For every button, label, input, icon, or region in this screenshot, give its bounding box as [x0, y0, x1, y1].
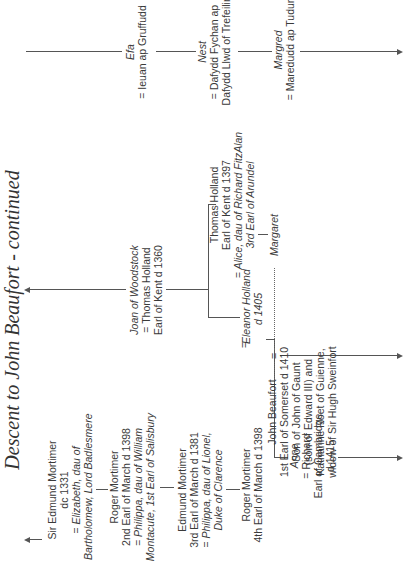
person-name: Nest — [196, 0, 208, 112]
person-joan-of-woodstock: Joan of Woodstock = Thomas Holland Earl … — [128, 240, 164, 340]
spouse-text: = Philippa, dau of William — [132, 412, 144, 562]
person-name: Joan of Woodstock — [128, 240, 140, 340]
person-margaret: Margaret — [268, 200, 280, 270]
spouse-text: Bartholomew, Lord Badlesmere — [82, 420, 94, 560]
arrow-icon — [24, 537, 30, 543]
person-name: Roger Mortimer — [108, 412, 120, 562]
arrow-icon — [397, 455, 403, 461]
person-nest: Nest = Dafydd Fychan ap Dafydd Llwd of T… — [196, 0, 232, 112]
person-sir-edmund-mortimer: Sir Edmund Mortimer dc 1331 = Elizabeth,… — [46, 420, 94, 560]
connector-line — [238, 51, 272, 52]
connector-line — [208, 317, 240, 318]
connector-line — [26, 51, 122, 52]
spouse-text: Montacute, 1st Earl of Salisbury — [144, 412, 156, 562]
connector-line — [160, 487, 174, 488]
person-detail: 2nd Earl of March d 1398 — [120, 412, 132, 562]
person-detail: Earl of Kent d 1397 — [220, 125, 232, 285]
spouse-text: Earl of Kent d 1360 — [152, 240, 164, 340]
connector-line — [28, 289, 126, 290]
spouse-text: = Philippa, dau of Lionel, — [200, 420, 212, 560]
person-name: Roger Mortimer — [240, 420, 252, 550]
person-name: Edmund Mortimer — [176, 420, 188, 560]
person-detail: Katharine Roet of Guienne, — [314, 342, 326, 482]
connector-line — [226, 489, 240, 490]
person-detail: 3rd Earl of March d 1381 — [188, 420, 200, 560]
person-detail: 1st Earl of Somerset d 1410 — [278, 342, 290, 482]
person-roger-mortimer-4th: Roger Mortimer 4th Earl of March d 1398 — [240, 420, 264, 550]
arrow-icon — [24, 287, 30, 293]
person-roger-mortimer-2nd: Roger Mortimer 2nd Earl of March d 1398 … — [108, 412, 156, 562]
connector-line — [96, 489, 108, 490]
arrow-icon — [397, 49, 403, 55]
spouse-text: Dafydd Llwd of Trefeilir — [220, 0, 232, 112]
connector-line — [28, 539, 42, 540]
person-name: John Beaufort — [266, 342, 278, 482]
person-detail: dc 1331 — [58, 420, 70, 560]
spouse-text: = Elizabeth, dau of — [70, 420, 82, 560]
person-efa: Efa = Ieuan ap Gruffudd — [124, 2, 148, 102]
spouse-text: = Dafydd Fychan ap — [208, 0, 220, 112]
connector-line — [338, 457, 398, 458]
spouse-text: 3rd Earl of Arundel — [244, 125, 256, 285]
page-title: Descent to John Beaufort - continued — [0, 100, 24, 540]
person-name: Efa — [124, 2, 136, 102]
spouse-text: = Alice, dau of Richard FitzAlan — [232, 125, 244, 285]
person-name: Margaret — [268, 200, 280, 270]
connector-line — [258, 234, 268, 235]
spouse-text: = Maredudd ap Tudur — [284, 0, 296, 110]
person-name: Margred — [272, 0, 284, 110]
person-detail: 4th Earl of March d 1398 — [252, 420, 264, 550]
connector-line — [166, 289, 208, 290]
person-name: Thomas Holland — [208, 125, 220, 285]
person-detail: widow of Sir Hugh Sweinfort — [326, 342, 338, 482]
person-name: Sir Edmund Mortimer — [46, 420, 58, 560]
person-thomas-holland: Thomas Holland Earl of Kent d 1397 = Ali… — [208, 125, 256, 285]
person-margred: Margred = Maredudd ap Tudur — [272, 0, 296, 110]
connector-line — [156, 51, 196, 52]
person-edmund-mortimer-3rd: Edmund Mortimer 3rd Earl of March d 1381… — [176, 420, 224, 560]
spouse-text: = Ieuan ap Gruffudd — [136, 2, 148, 102]
arrow-icon — [397, 353, 403, 359]
person-detail: (son of Edward III) and — [302, 342, 314, 482]
person-john-beaufort-block: John Beaufort 1st Earl of Somerset d 141… — [266, 342, 338, 482]
spouse-text: = Thomas Holland — [140, 240, 152, 340]
genealogy-page: Descent to John Beaufort - continued Sir… — [0, 0, 405, 580]
spouse-text: Duke of Clarence — [212, 420, 224, 560]
person-detail: Son of John of Gaunt — [290, 342, 302, 482]
connector-line — [300, 51, 398, 52]
